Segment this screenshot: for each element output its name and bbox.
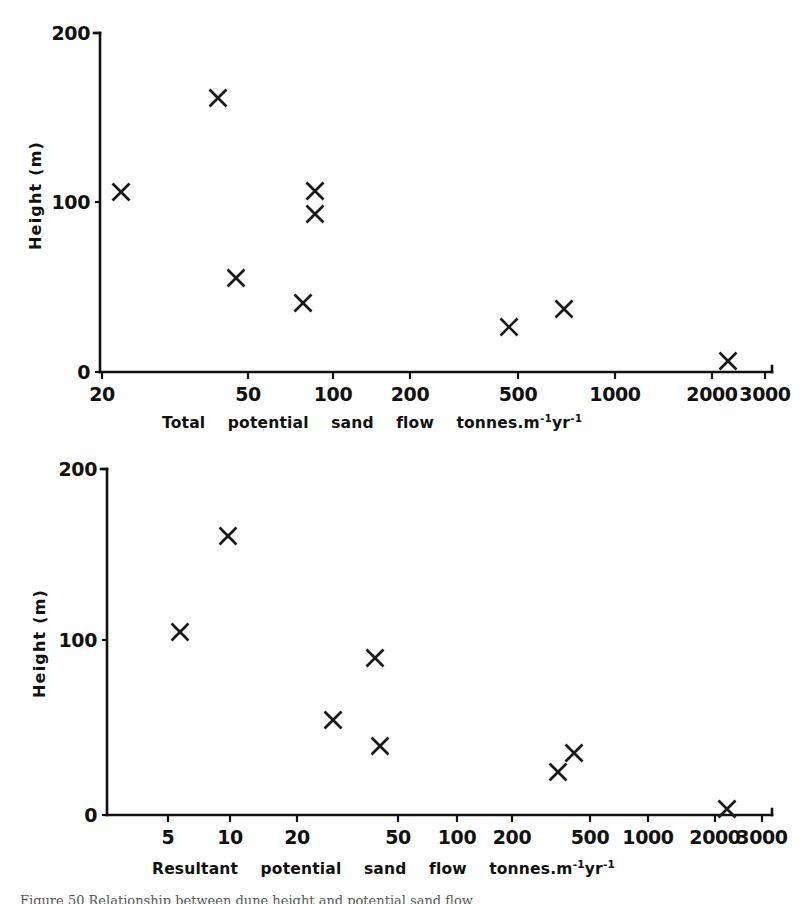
x-axis-title-b-word-3: sand [364,860,407,878]
data-point-marker [367,650,384,667]
y-tick-label: 100 [59,629,98,651]
y-axis-title-bottom: Height (m) [30,589,49,698]
data-point-marker [325,712,342,729]
y-tick-label: 0 [84,804,97,826]
x-axis-title-b-exp-2: -1 [603,858,615,870]
x-tick-label: 1000 [622,826,673,848]
x-tick-label: 200 [493,826,532,848]
x-tick-label: 10 [217,826,243,848]
figure-caption: Figure 50 Relationship between dune heig… [20,893,800,904]
x-tick-label: 2000 [689,826,740,848]
data-point-marker [220,528,237,545]
x-tick-label: 500 [571,826,610,848]
data-point-marker [372,738,389,755]
x-axis-title-b-unit: tonnes.m [489,860,573,878]
x-tick-label: 100 [438,826,477,848]
x-axis-title-b-word-4: flow [429,860,467,878]
data-point-marker [566,745,583,762]
x-tick-label: 20 [284,826,310,848]
chart-panel-bottom: 01002005102050100200500100020003000 Heig… [0,440,811,880]
x-tick-label: 3000 [736,826,787,848]
data-point-marker [172,624,189,641]
x-tick-label: 50 [385,826,411,848]
x-axis-title-b-exp-1: -1 [573,858,585,870]
data-point-marker [550,764,567,781]
y-tick-label: 200 [59,458,98,480]
x-tick-label: 5 [162,826,175,848]
scatter-plot-bottom: 01002005102050100200500100020003000 [0,0,811,904]
x-axis-title-b-word-1: Resultant [152,860,238,878]
x-axis-title-b-word-2: potential [261,860,342,878]
x-axis-title-bottom: Resultant potential sand flow tonnes.m-1… [152,858,615,878]
figure-container: 01002002050100200500100020003000 Height … [0,0,811,904]
x-axis-title-b-unit-yr: yr [585,860,603,878]
